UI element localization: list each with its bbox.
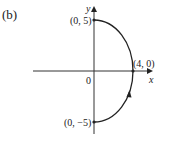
y-axis-label: y [85,3,91,14]
direction-arrow-icon [127,90,132,98]
point-label-0-neg5: (0, −5) [64,117,91,129]
point-0-5 [92,18,95,21]
origin-label: 0 [86,75,91,86]
panel-label: (b) [2,7,17,22]
point-label-4-0: (4, 0) [133,58,155,70]
point-0-neg5 [92,120,95,123]
point-4-0 [131,69,134,72]
x-axis-label: x [148,74,154,85]
point-label-0-5: (0, 5) [70,15,92,27]
parametric-curve-diagram: (b) y x 0 (0, 5) (4, 0) (0, −5) [0,0,185,142]
